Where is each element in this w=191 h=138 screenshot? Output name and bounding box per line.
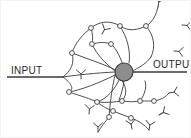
dendrite-terminal — [126, 119, 136, 129]
synapse-node — [138, 99, 143, 104]
dendrite-branch — [63, 72, 115, 77]
dendrite-terminal — [85, 105, 95, 115]
input-label: INPUT — [11, 65, 43, 76]
synapse-node — [144, 24, 149, 29]
dendrite-branch — [146, 7, 158, 26]
neuron-diagram-figure: INPUT OUTPUT — [0, 0, 191, 138]
synapse-node — [107, 115, 112, 120]
synapse-node — [118, 24, 123, 29]
dendrite-branch — [119, 81, 124, 100]
dendrite-terminal — [98, 24, 110, 36]
dendrite-terminal — [168, 87, 178, 97]
dendrite-branch — [69, 92, 97, 102]
dendrite-branch — [91, 22, 120, 28]
dendrite-branch — [132, 57, 151, 71]
dendrite-branch — [120, 26, 130, 63]
dendrite-branch — [72, 28, 91, 53]
dendrite-terminal — [154, 1, 164, 8]
synapse-node — [152, 99, 157, 104]
synapse-node — [111, 109, 116, 114]
dendrite-branch — [92, 43, 111, 45]
synapse-node — [120, 99, 125, 104]
dendrite-branch — [113, 111, 131, 118]
synapse-node — [67, 90, 72, 95]
dendrite-branch — [131, 118, 149, 130]
dendrite-terminal — [157, 107, 169, 119]
soma-node — [115, 63, 133, 81]
synapse-node — [129, 116, 134, 121]
diagram-canvas: INPUT OUTPUT — [1, 1, 191, 138]
synapse-node — [90, 42, 95, 47]
dendrite-terminal — [145, 120, 155, 130]
dendrite-branch — [92, 44, 115, 71]
synapse-node — [95, 100, 100, 105]
dendrite-terminal — [174, 47, 184, 57]
dendrite-branch — [97, 101, 122, 102]
dendrite-branch — [120, 26, 146, 30]
dendrite-branch — [140, 81, 146, 101]
dendrite-terminal — [182, 21, 191, 31]
synapse-node — [109, 42, 114, 47]
dendrite-branch — [97, 80, 119, 102]
dendrite-branch — [63, 53, 73, 77]
synapse-node — [89, 26, 94, 31]
synapse-node — [70, 51, 75, 56]
output-label: OUTPUT — [153, 59, 191, 70]
dendrite-branch — [72, 53, 116, 70]
dendrite-branch — [69, 75, 115, 92]
dendrite-branch — [146, 26, 154, 57]
